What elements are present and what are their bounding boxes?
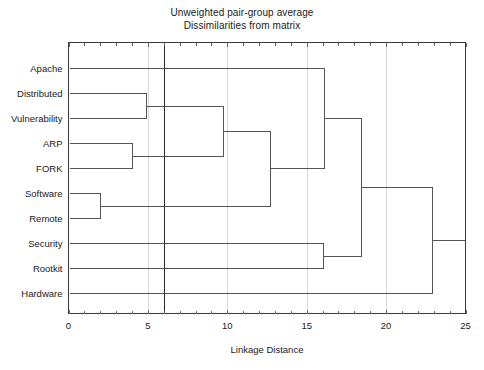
leaf-label-fork: FORK [36,163,63,174]
dendrogram-figure: Unweighted pair-group average Dissimilar… [0,0,484,370]
x-axis-title: Linkage Distance [231,344,304,355]
leaf-label-apache: Apache [30,63,62,74]
leaf-label-remote: Remote [29,213,62,224]
grid-lines [149,43,387,314]
x-tick-label: 5 [145,320,150,331]
x-axis-title: Linkage Distance [231,344,304,355]
x-tick-label: 15 [301,320,312,331]
leaf-label-rootkit: Rootkit [33,263,63,274]
x-tick-labels: 0510152025 [66,320,471,331]
x-tick-label: 0 [66,320,71,331]
x-tick-label: 20 [381,320,392,331]
dendrogram-plot: 0510152025 ApacheDistributedVulnerabilit… [0,0,484,370]
leaf-label-vulnerability: Vulnerability [11,113,63,124]
leaf-label-hardware: Hardware [21,288,62,299]
dendrogram-branches [70,69,466,294]
leaf-label-software: Software [25,188,63,199]
x-tick-label: 10 [222,320,233,331]
leaf-label-security: Security [28,238,63,249]
x-tick-label: 25 [460,320,471,331]
leaf-label-distributed: Distributed [17,88,62,99]
leaf-label-arp: ARP [43,138,63,149]
leaf-labels: ApacheDistributedVulnerabilityARPFORKSof… [11,63,63,299]
plot-frame [69,43,466,314]
axis-ticks [70,43,467,314]
